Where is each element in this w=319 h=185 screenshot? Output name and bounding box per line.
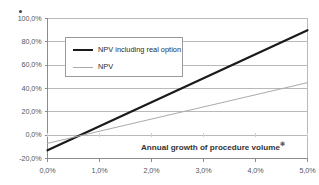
x-axis-title-text: Annual growth of procedure volume (141, 143, 280, 152)
chart-plot-svg (0, 0, 318, 185)
legend-item-npv-including-real-option: NPV including real option (73, 45, 181, 55)
x-axis-tick-label-2: 2,0% (137, 166, 167, 175)
y-axis-tick-label-4: 20,0% (4, 107, 42, 116)
x-axis-title-footnote-mark: ✻ (280, 141, 285, 147)
y-axis-tick-label-2: 60,0% (4, 60, 42, 69)
chart-container: 100,0%80,0%60,0%40,0%20,0%0,0%-20,0% 0,0… (0, 0, 318, 185)
legend-swatch-icon-series-0 (73, 49, 93, 51)
y-axis-tick-label-5: 0,0% (4, 130, 42, 139)
x-axis-title: Annual growth of procedure volume✻ (141, 140, 285, 152)
y-axis-tick-label-0: 100,0% (4, 14, 42, 23)
legend-label-series-0: NPV including real option (98, 45, 181, 55)
x-axis-tick-label-4: 4,0% (241, 166, 271, 175)
legend-swatch-icon-series-1 (73, 67, 93, 68)
series-line-1 (48, 83, 308, 144)
x-axis-tick-label-3: 3,0% (189, 166, 219, 175)
legend-item-npv: NPV (73, 62, 113, 72)
x-axis-tick-label-5: 5,0% (293, 166, 319, 175)
chart-legend: NPV including real option NPV (65, 37, 183, 77)
x-axis-tick-label-0: 0,0% (33, 166, 63, 175)
y-axis-tick-label-3: 40,0% (4, 84, 42, 93)
x-axis-tick-label-1: 1,0% (85, 166, 115, 175)
legend-label-series-1: NPV (98, 62, 113, 72)
y-axis-tick-label-1: 80,0% (4, 37, 42, 46)
y-axis-tick-label-6: -20,0% (4, 154, 42, 163)
